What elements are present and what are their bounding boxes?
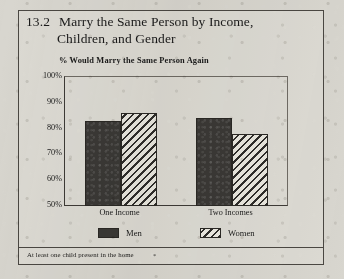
footnote-divider [19,247,323,248]
x-axis-labels: One IncomeTwo Incomes [64,208,288,222]
y-axis-tick-80: 80% [47,123,62,133]
y-axis-tick-100: 100% [43,71,62,81]
title-text-line-2: Children, and Gender [26,30,318,47]
legend-label-men: Men [126,228,142,238]
x-axis-label-two-incomes: Two Incomes [175,208,286,217]
legend-item-men[interactable]: Men [98,228,142,238]
title-line-1: 13.2Marry the Same Person by Income, [26,13,318,30]
y-axis: 50%60%70%80%90%100% [28,70,62,212]
chart-subtitle: % Would Marry the Same Person Again [59,56,209,65]
footnote-marker: * [153,252,156,259]
x-axis-label-one-income: One Income [64,208,175,217]
figure-number: 13.2 [26,14,50,29]
bar-men-one-income [85,121,121,206]
bar-women-two-incomes [232,134,268,206]
figure-title: 13.2Marry the Same Person by Income, Chi… [26,13,318,47]
legend-swatch-men-icon [98,228,119,238]
bar-men-two-incomes [196,118,232,206]
bar-women-one-income [121,113,157,206]
legend-swatch-women-icon [200,228,221,238]
chart-legend: MenWomen [64,228,288,242]
bars-layer [65,77,287,206]
y-axis-tick-70: 70% [47,148,62,158]
legend-label-women: Women [228,228,255,238]
y-axis-tick-50: 50% [47,200,62,210]
legend-item-women[interactable]: Women [200,228,255,238]
y-axis-tick-90: 90% [47,97,62,107]
title-text-line-1: Marry the Same Person by Income, [59,14,253,29]
y-axis-tick-60: 60% [47,174,62,184]
footnote-text: At least one child present in the home [27,251,134,258]
